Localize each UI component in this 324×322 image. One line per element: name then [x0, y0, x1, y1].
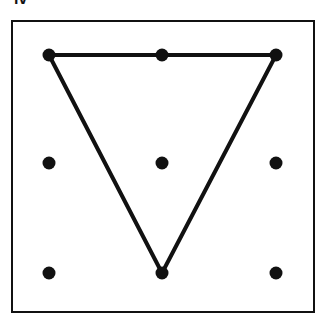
grid-dot — [43, 267, 56, 280]
grid-dot — [270, 267, 283, 280]
dot-grid — [43, 49, 283, 280]
grid-dot — [156, 267, 169, 280]
grid-dot — [270, 49, 283, 62]
grid-dot — [156, 157, 169, 170]
grid-dot — [270, 157, 283, 170]
dot-grid-diagram — [0, 0, 324, 322]
grid-dot — [156, 49, 169, 62]
grid-dot — [43, 49, 56, 62]
grid-dot — [43, 157, 56, 170]
